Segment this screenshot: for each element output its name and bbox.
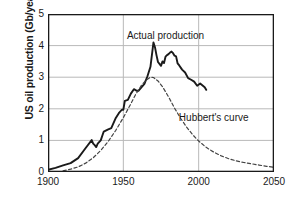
y-tick-label: 2 [38,104,44,114]
series-line-actual-production [48,42,206,169]
plot-area: 012345 1900195020002050 Actual productio… [48,14,274,172]
x-tick-label: 2050 [263,177,285,187]
chart-figure: US oil production (Gb/year) 012345 19001… [0,0,301,201]
y-tick-label: 4 [38,41,44,51]
y-axis-label: US oil production (Gb/year) [23,0,35,129]
y-tick-label: 1 [38,135,44,145]
annotation-actual-production: Actual production [127,29,204,40]
x-tick-label: 1950 [112,177,134,187]
x-tick-label: 1900 [37,177,59,187]
series-line-hubbert-s-curve [63,77,274,171]
y-tick-label: 3 [38,72,44,82]
annotation-hubbert-s-curve: Hubbert's curve [179,111,249,122]
x-tick-label: 2000 [188,177,210,187]
data-series [48,42,274,170]
y-tick-label: 5 [38,9,44,19]
